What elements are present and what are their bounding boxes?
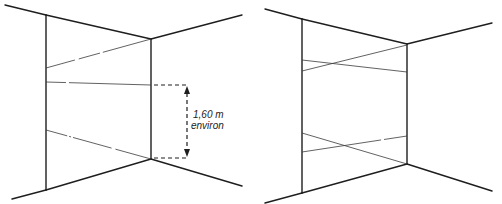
ceiling-edge-left bbox=[265, 9, 302, 19]
floor-edge-right bbox=[407, 164, 492, 191]
floor-edge-back bbox=[302, 164, 407, 193]
dimension-label-value: 1,60 m bbox=[193, 109, 224, 120]
laser-line-lower bbox=[46, 130, 151, 159]
floor-edge-left bbox=[12, 190, 46, 199]
laser-line-lower-b bbox=[302, 136, 407, 152]
arrow-up-icon bbox=[184, 86, 190, 94]
ceiling-edge-right bbox=[407, 23, 492, 44]
left-panel: 1,60 m environ bbox=[5, 5, 242, 199]
laser-line-upper-a bbox=[302, 60, 407, 72]
floor-edge-back bbox=[46, 159, 151, 190]
dimension-label-qualifier: environ bbox=[191, 120, 224, 131]
arrow-down-icon bbox=[184, 149, 190, 157]
figure-canvas: 1,60 m environ bbox=[0, 0, 502, 204]
floor-edge-left bbox=[265, 193, 302, 203]
laser-line-level bbox=[46, 82, 151, 85]
ceiling-edge-right bbox=[151, 15, 242, 39]
ceiling-edge-back bbox=[302, 19, 407, 44]
ceiling-edge-back bbox=[46, 15, 151, 39]
right-panel bbox=[265, 9, 492, 203]
ceiling-edge-left bbox=[5, 5, 46, 15]
laser-line-upper bbox=[46, 39, 151, 68]
laser-line-lower-a bbox=[302, 133, 407, 164]
laser-line-upper-b bbox=[302, 45, 407, 71]
floor-edge-right bbox=[151, 159, 242, 186]
